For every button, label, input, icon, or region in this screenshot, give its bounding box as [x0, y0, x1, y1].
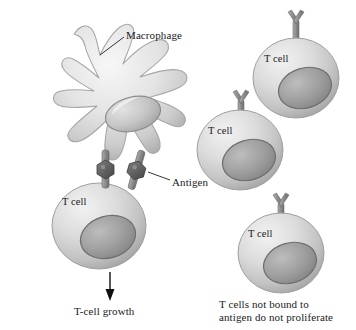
- antigen-leader-line: [148, 172, 170, 180]
- diagram-canvas: [0, 0, 356, 330]
- macrophage-body: [54, 24, 187, 160]
- receptor-antigen-complex-right: [123, 148, 150, 191]
- y-receptor-icon-top-right: [288, 10, 304, 40]
- macrophage-cell: [54, 24, 187, 160]
- tcell-middle-right-label: T cell: [208, 125, 233, 137]
- antigen-left-highlight: [101, 165, 105, 169]
- tcell-bottom-right: [238, 193, 324, 293]
- tcell-bottom-right-label: T cell: [248, 228, 273, 240]
- caption-line-1: T cells not bound to: [219, 298, 333, 311]
- tcell-top-right-label: T cell: [264, 53, 289, 65]
- antigen-icon-left: [97, 160, 114, 179]
- antigen-label: Antigen: [172, 176, 208, 189]
- tcell-bound-label: T cell: [62, 196, 87, 208]
- antigen-icon-right: [126, 159, 148, 182]
- caption-line-2: antigen do not proliferate: [219, 311, 333, 324]
- macrophage-label: Macrophage: [126, 29, 182, 42]
- diagram-figure: Macrophage Antigen T-cell growth T cells…: [0, 0, 356, 330]
- tcell-growth-label: T-cell growth: [74, 305, 134, 318]
- down-arrow-icon: [106, 272, 115, 301]
- no-proliferation-caption: T cells not bound to antigen do not prol…: [219, 298, 333, 324]
